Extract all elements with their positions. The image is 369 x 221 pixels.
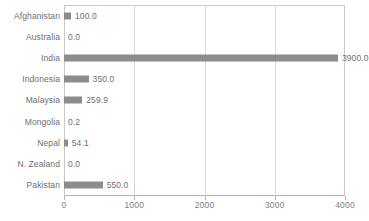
bar-row: N. Zealand0.0 [0, 154, 363, 175]
category-label: Mongolia [25, 117, 64, 127]
category-label: Australia [26, 32, 64, 42]
bar-value-label: 54.1 [68, 138, 89, 148]
bar[interactable] [64, 76, 89, 83]
bar-value-label: 3900.0 [338, 53, 369, 63]
bar[interactable] [64, 12, 71, 19]
bar-row: Pakistan550.0 [0, 175, 363, 196]
category-label: Nepal [37, 138, 64, 148]
x-tick-label-0: 0 [62, 200, 67, 210]
x-tick-label-4000: 4000 [335, 200, 355, 210]
category-label: Afghanistan [14, 11, 64, 21]
category-label: Pakistan [27, 180, 64, 190]
category-label: Indonesia [22, 74, 64, 84]
bar-row: India3900.0 [0, 47, 363, 68]
category-label: India [41, 53, 64, 63]
bar-value-label: 259.9 [82, 95, 108, 105]
bar-row: Malaysia259.9 [0, 90, 363, 111]
bar-value-label: 0.0 [64, 159, 80, 169]
bar-row: Afghanistan100.0 [0, 5, 363, 26]
bar-row: Australia0.0 [0, 26, 363, 47]
bar[interactable] [64, 182, 103, 189]
category-label: N. Zealand [17, 159, 64, 169]
bar-row: Mongolia0.2 [0, 111, 363, 132]
x-tick-label-3000: 3000 [265, 200, 285, 210]
bar-value-label: 0.0 [64, 32, 80, 42]
category-label: Malaysia [26, 95, 64, 105]
bar-value-label: 0.2 [64, 117, 80, 127]
bar-value-label: 350.0 [89, 74, 115, 84]
bar[interactable] [64, 97, 82, 104]
x-tick-label-2000: 2000 [195, 200, 215, 210]
bar-value-label: 100.0 [71, 11, 97, 21]
x-tick-label-1000: 1000 [124, 200, 144, 210]
bar-row: Indonesia350.0 [0, 69, 363, 90]
bar-value-label: 550.0 [103, 180, 129, 190]
bar[interactable] [64, 55, 338, 62]
bar-row: Nepal54.1 [0, 132, 363, 153]
